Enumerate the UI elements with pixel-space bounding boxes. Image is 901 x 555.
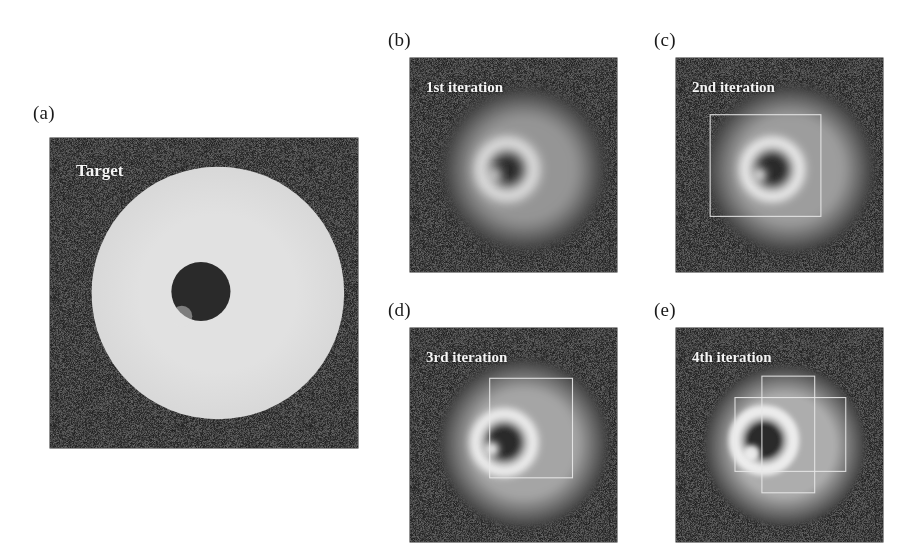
panel-caption-a: Target (76, 162, 124, 179)
image-panel-e: 4th iteration (676, 328, 883, 542)
panel-caption-b: 1st iteration (426, 80, 503, 95)
specimen-a (50, 138, 358, 448)
panel-label-a: (a) (33, 103, 55, 122)
panel-caption-d: 3rd iteration (426, 350, 507, 365)
panel-label-d: (d) (388, 300, 411, 319)
image-panel-a: Target (50, 138, 358, 448)
figure-root: (a)Target(b)1st iteration(c)2nd iteratio… (0, 0, 901, 555)
image-panel-d: 3rd iteration (410, 328, 617, 542)
panel-label-e: (e) (654, 300, 676, 319)
panel-caption-c: 2nd iteration (692, 80, 775, 95)
panel-noise-a (50, 138, 358, 448)
panel-grain-a (50, 138, 358, 448)
panel-label-b: (b) (388, 30, 411, 49)
specimen-render-a (50, 138, 358, 448)
panel-caption-e: 4th iteration (692, 350, 772, 365)
image-panel-c: 2nd iteration (676, 58, 883, 272)
image-panel-b: 1st iteration (410, 58, 617, 272)
panel-label-c: (c) (654, 30, 676, 49)
